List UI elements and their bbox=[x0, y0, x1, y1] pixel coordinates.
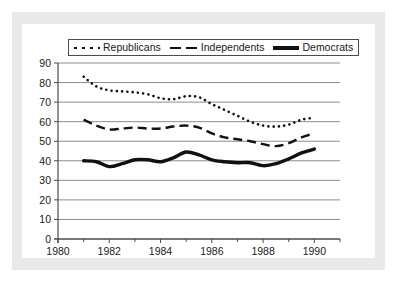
series-line-independents bbox=[84, 120, 315, 146]
plot-svg bbox=[22, 24, 375, 258]
y-tick-label-0: 0 bbox=[31, 234, 51, 245]
plot-area: 9080706050403020100 19801982198419861988… bbox=[22, 24, 375, 258]
x-tick-label-1980: 1980 bbox=[40, 246, 76, 257]
chart-card: Republicans Independents Democrats 90807… bbox=[22, 24, 375, 258]
y-tick-label-10: 10 bbox=[31, 214, 51, 225]
y-tick-label-60: 60 bbox=[31, 117, 51, 128]
y-tick-label-70: 70 bbox=[31, 97, 51, 108]
y-tick-label-90: 90 bbox=[31, 58, 51, 69]
x-tick-label-1984: 1984 bbox=[143, 246, 179, 257]
y-tick-label-50: 50 bbox=[31, 136, 51, 147]
y-tick-label-20: 20 bbox=[31, 195, 51, 206]
x-tick-label-1990: 1990 bbox=[296, 246, 332, 257]
x-tick-label-1988: 1988 bbox=[245, 246, 281, 257]
chart-screenshot: Republicans Independents Democrats 90807… bbox=[0, 0, 397, 298]
y-tick-label-30: 30 bbox=[31, 175, 51, 186]
y-tick-label-80: 80 bbox=[31, 78, 51, 89]
y-tick-label-40: 40 bbox=[31, 156, 51, 167]
x-tick-label-1986: 1986 bbox=[194, 246, 230, 257]
series-line-democrats bbox=[84, 149, 315, 167]
x-tick-label-1982: 1982 bbox=[91, 246, 127, 257]
